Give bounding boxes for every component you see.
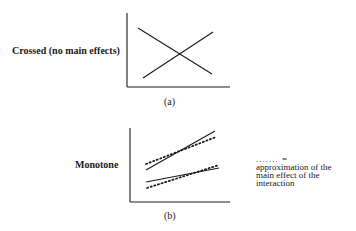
interaction-line-2 [146,168,219,182]
legend-line-3: interaction [256,179,331,187]
panel-b-label: Monotone [75,159,118,170]
main-effect-line-1 [146,137,216,164]
panel-b-plot [130,128,230,202]
panel-a-label: Crossed (no main effects) [12,45,120,56]
panel-a-plot [127,13,230,87]
interaction-line-1 [143,32,213,78]
panel-a-caption: (a) [164,96,175,107]
legend: ....... = approximation of the main effe… [256,155,331,187]
main-effect-line-3 [147,165,219,188]
panel-b-caption: (b) [164,210,176,221]
diagram-canvas [0,0,356,231]
interaction-line-0 [138,28,212,74]
interaction-line-0 [146,131,215,170]
